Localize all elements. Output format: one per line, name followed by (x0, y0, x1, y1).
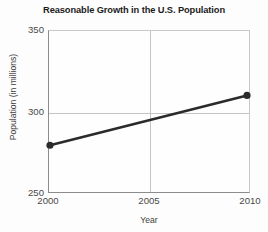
y-axis-tick-300: 300 (14, 106, 44, 117)
plot-area (48, 30, 250, 193)
y-axis-label: Population (in millions) (8, 27, 18, 167)
x-axis-tick-2000: 2000 (26, 195, 70, 206)
x-axis-tick-2005: 2005 (127, 195, 171, 206)
data-point-2010 (243, 92, 250, 99)
y-axis-tick-350: 350 (14, 24, 44, 35)
data-point-2000 (46, 142, 53, 149)
data-line (50, 95, 247, 145)
series-line-us-population (49, 31, 249, 192)
x-axis-label: Year (48, 215, 250, 225)
chart-container: Reasonable Growth in the U.S. Population… (0, 0, 268, 232)
chart-title: Reasonable Growth in the U.S. Population (0, 5, 268, 15)
x-axis-tick-2010: 2010 (228, 195, 268, 206)
